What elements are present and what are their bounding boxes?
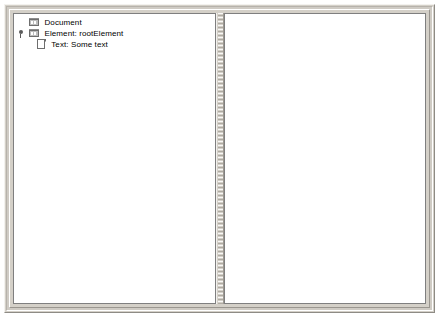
tree-expand-handle[interactable] <box>18 17 27 28</box>
tree-expand-handle[interactable] <box>18 28 27 39</box>
dom-tree[interactable]: Document Eleme <box>14 14 215 50</box>
tree-node-label: Text: Some text <box>51 39 108 50</box>
split-pane: Document Eleme <box>13 13 426 304</box>
window-bevel-inner: Document Eleme <box>9 9 430 308</box>
tree-row[interactable]: Text: Some text <box>14 39 215 50</box>
tree-row[interactable]: Element: rootElement <box>14 28 215 39</box>
element-node-icon <box>29 28 40 39</box>
window-bevel-outer: Document Eleme <box>6 6 433 311</box>
application-window: Document Eleme <box>4 4 435 313</box>
split-pane-divider[interactable] <box>216 13 224 304</box>
tree-node-label: Element: rootElement <box>44 28 123 39</box>
text-leaf-icon <box>36 39 47 50</box>
right-pane-detail-view[interactable] <box>224 13 426 304</box>
document-node-icon <box>29 17 40 28</box>
divider-grip-texture <box>218 13 223 304</box>
tree-row[interactable]: Document <box>14 17 215 28</box>
tree-node-label: Document <box>44 17 81 28</box>
left-pane-tree-view[interactable]: Document Eleme <box>13 13 216 304</box>
